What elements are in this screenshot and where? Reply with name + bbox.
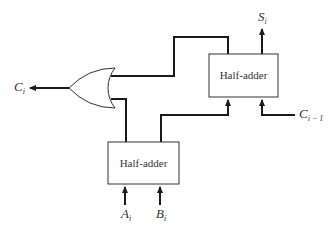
- input-b-label: Bi: [156, 206, 166, 223]
- carry-in-wire: [262, 100, 295, 115]
- half-adder-1-label: Half-adder: [120, 157, 168, 169]
- full-adder-diagram: Half-adder Si Ci − 1 Half-adder Ai Bi Ci: [0, 0, 333, 229]
- carry-out-label: Ci: [14, 79, 25, 96]
- carry-in-label: Ci − 1: [299, 106, 323, 123]
- input-a-label: Ai: [120, 206, 131, 223]
- sum-label: Si: [258, 9, 267, 26]
- or-gate: [69, 68, 115, 108]
- ha1-sum-wire: [161, 100, 228, 142]
- half-adder-2-label: Half-adder: [220, 69, 268, 81]
